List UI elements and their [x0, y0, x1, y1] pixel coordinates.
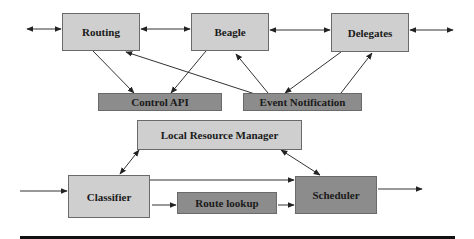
classifier-node: Classifier — [68, 175, 150, 218]
route-lookup-node: Route lookup — [177, 192, 277, 214]
routing-node: Routing — [62, 13, 140, 51]
delegates-label: Delegates — [348, 27, 393, 39]
delegates-node: Delegates — [331, 13, 409, 52]
control-api-label: Control API — [131, 96, 189, 108]
classifier-label: Classifier — [87, 191, 132, 203]
beagle-label: Beagle — [214, 26, 245, 38]
local-resource-manager-node: Local Resource Manager — [137, 120, 302, 150]
local-resource-manager-label: Local Resource Manager — [161, 129, 279, 141]
scheduler-node: Scheduler — [295, 176, 377, 214]
control-api-node: Control API — [98, 93, 222, 111]
routing-label: Routing — [82, 26, 120, 38]
bottom-divider — [20, 236, 455, 239]
scheduler-label: Scheduler — [312, 189, 359, 201]
route-lookup-label: Route lookup — [195, 197, 258, 209]
event-notification-label: Event Notification — [260, 96, 346, 108]
event-notification-node: Event Notification — [243, 93, 362, 111]
beagle-node: Beagle — [191, 13, 269, 51]
